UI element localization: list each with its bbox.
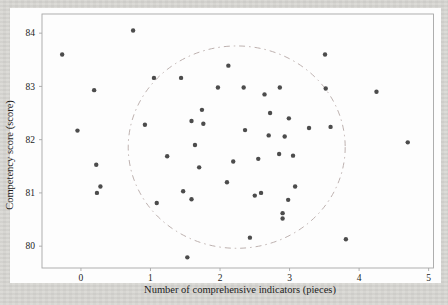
data-point bbox=[75, 128, 79, 132]
data-point bbox=[328, 125, 332, 129]
scatter-plot: 0123458081828384 Number of comprehensive… bbox=[0, 0, 448, 305]
data-point bbox=[323, 52, 327, 56]
data-point bbox=[189, 119, 193, 123]
data-point bbox=[282, 134, 286, 138]
data-point bbox=[197, 165, 201, 169]
data-point bbox=[256, 157, 260, 161]
x-axis-title: Number of comprehensive indicators (piec… bbox=[144, 284, 336, 296]
y-tick-label: 82 bbox=[26, 135, 36, 145]
data-point bbox=[344, 237, 348, 241]
data-point bbox=[248, 235, 252, 239]
data-point bbox=[193, 143, 197, 147]
y-tick-label: 80 bbox=[26, 241, 36, 251]
data-point bbox=[241, 85, 245, 89]
data-point bbox=[131, 28, 135, 32]
data-point bbox=[307, 126, 311, 130]
data-point bbox=[259, 191, 263, 195]
data-point bbox=[201, 121, 205, 125]
data-point bbox=[374, 90, 378, 94]
data-point bbox=[60, 52, 64, 56]
scatter-plot-figure: 0123458081828384 Number of comprehensive… bbox=[0, 0, 448, 305]
data-point bbox=[280, 211, 284, 215]
data-point bbox=[189, 197, 193, 201]
data-point bbox=[225, 180, 229, 184]
data-point bbox=[253, 193, 257, 197]
x-tick-label: 0 bbox=[79, 273, 84, 283]
data-point bbox=[280, 216, 284, 220]
y-tick-label: 83 bbox=[26, 82, 36, 92]
x-tick-label: 4 bbox=[357, 273, 362, 283]
data-point bbox=[185, 255, 189, 259]
data-point bbox=[268, 111, 272, 115]
data-point bbox=[293, 184, 297, 188]
data-point bbox=[94, 162, 98, 166]
data-point bbox=[277, 152, 281, 156]
data-point bbox=[243, 128, 247, 132]
data-point bbox=[155, 201, 159, 205]
data-point bbox=[286, 198, 290, 202]
data-point bbox=[278, 85, 282, 89]
data-point bbox=[406, 140, 410, 144]
data-point bbox=[287, 116, 291, 120]
data-point bbox=[179, 76, 183, 80]
x-tick-label: 2 bbox=[218, 273, 223, 283]
data-point bbox=[165, 154, 169, 158]
data-point bbox=[324, 86, 328, 90]
data-point bbox=[95, 191, 99, 195]
x-tick-label: 5 bbox=[426, 273, 431, 283]
y-tick-label: 81 bbox=[26, 188, 36, 198]
data-point bbox=[152, 76, 156, 80]
data-point bbox=[262, 92, 266, 96]
data-point bbox=[181, 189, 185, 193]
data-point bbox=[291, 153, 295, 157]
data-point bbox=[98, 184, 102, 188]
data-point bbox=[226, 63, 230, 67]
y-tick-label: 84 bbox=[26, 28, 36, 38]
data-point bbox=[266, 133, 270, 137]
x-tick-label: 3 bbox=[287, 273, 292, 283]
x-tick-label: 1 bbox=[148, 273, 153, 283]
data-point bbox=[200, 108, 204, 112]
data-point bbox=[216, 85, 220, 89]
data-point bbox=[92, 88, 96, 92]
y-axis-title: Competency score (score) bbox=[4, 100, 16, 210]
data-point bbox=[143, 123, 147, 127]
data-point bbox=[231, 159, 235, 163]
figure-background bbox=[10, 8, 441, 283]
